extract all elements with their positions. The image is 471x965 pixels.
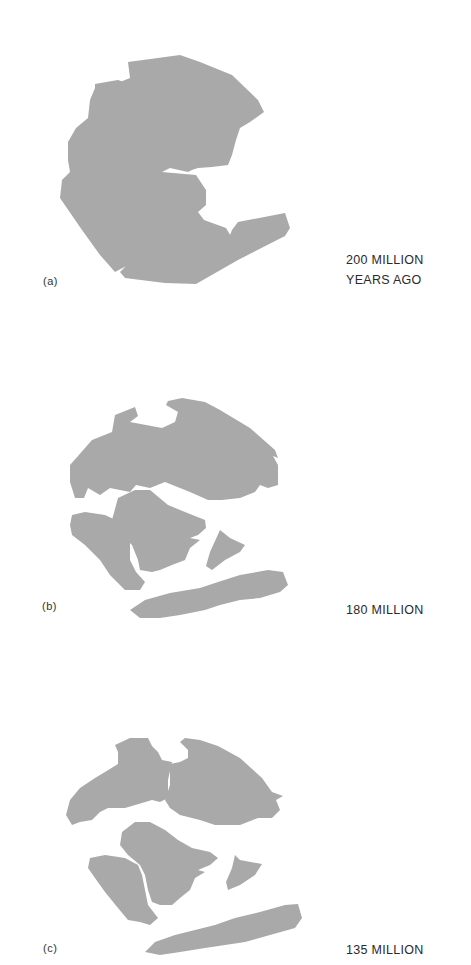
landmass-laurasia	[70, 398, 278, 500]
landmass-north-america	[66, 738, 172, 825]
age-label-a-line2: YEARS AGO	[346, 270, 424, 290]
age-label-a-line1: 200 MILLION	[346, 250, 424, 270]
landmass-antarctica-australia	[130, 570, 288, 618]
panel-letter-a: (a)	[43, 275, 58, 287]
landmass-antarctica-australia	[145, 904, 302, 955]
panel-letter-c: (c)	[43, 942, 57, 954]
age-label-c: 135 MILLION	[346, 940, 424, 960]
landmass-india	[226, 855, 262, 890]
panel-letter-b: (b)	[42, 600, 57, 612]
pangaea-map-b	[0, 360, 471, 630]
panel-c: (c) 135 MILLION	[0, 680, 471, 965]
pangaea-map-c	[0, 680, 471, 965]
panel-a: (a) 200 MILLION YEARS AGO	[0, 0, 471, 320]
age-label-b: 180 MILLION	[346, 600, 424, 620]
landmass-pangaea	[60, 55, 290, 284]
age-label-a: 200 MILLION YEARS AGO	[346, 250, 424, 290]
landmass-eurasia	[165, 738, 283, 825]
panel-b: (b) 180 MILLION	[0, 360, 471, 630]
landmass-india	[206, 530, 245, 570]
age-label-c-line1: 135 MILLION	[346, 940, 424, 960]
age-label-b-line1: 180 MILLION	[346, 600, 424, 620]
